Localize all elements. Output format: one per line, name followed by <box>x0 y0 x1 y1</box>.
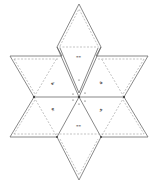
hinge-top-right <box>79 47 101 97</box>
left-vertex-dot <box>33 96 35 98</box>
top-tab-fold <box>60 9 98 46</box>
upper-right-diag-fold <box>101 58 124 97</box>
lower-right-diag-fold <box>101 97 124 137</box>
bottom-right-vertex-dot <box>100 136 102 138</box>
hinge-top-right-inner <box>79 48 98 93</box>
hinge-bottom-right <box>79 97 101 137</box>
lower-left-outline <box>10 97 57 137</box>
upper-right-side-fold <box>123 59 144 94</box>
label-lower-left: 8: <box>50 107 55 112</box>
center-mark-top <box>78 79 79 80</box>
right-vertex-dot <box>123 96 125 98</box>
bottom-tab-fold <box>60 139 98 175</box>
center-mark-ur <box>84 92 85 93</box>
bottom-point-outline <box>57 137 101 180</box>
label-lower-right: :8 <box>98 108 103 113</box>
hinge-bottom-left <box>57 97 79 137</box>
upper-right-outline <box>96 47 148 97</box>
center-mark-ll <box>72 99 73 100</box>
center-vertex-dot <box>78 96 80 98</box>
label-upper-right: :8 <box>98 80 103 85</box>
center-mark-ul <box>72 93 73 94</box>
lower-right-outline <box>101 97 148 137</box>
upper-left-side-fold <box>14 59 35 94</box>
lower-right-side-fold <box>123 100 144 134</box>
label-top: == <box>76 55 82 59</box>
hexagram-net-diagram: == 8: :8 8: :8 == <box>0 0 155 184</box>
center-mark-bottom <box>78 103 79 104</box>
cut-lines <box>10 4 148 180</box>
center-mark-lr <box>84 100 85 101</box>
top-point-outline <box>57 4 101 47</box>
lower-left-side-fold <box>14 100 35 134</box>
vertex-marks <box>33 79 125 138</box>
label-bottom: == <box>76 124 82 128</box>
bottom-left-vertex-dot <box>56 136 58 138</box>
upper-left-diag-fold <box>34 58 57 97</box>
label-upper-left: 8: <box>50 81 55 86</box>
upper-left-outline <box>10 47 62 97</box>
lower-left-diag-fold <box>34 97 57 137</box>
fold-lines <box>14 9 144 175</box>
